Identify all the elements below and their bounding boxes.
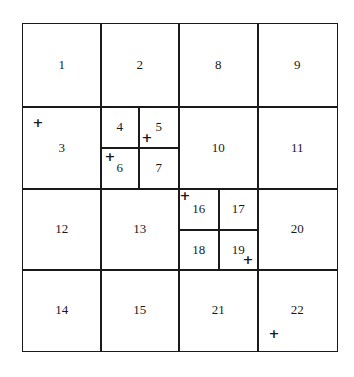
cell-label: 13 xyxy=(133,221,146,237)
cell-label: 2 xyxy=(137,57,144,73)
cell-label: 3 xyxy=(59,140,66,156)
cell-label: 8 xyxy=(215,57,222,73)
cell-11: 11 xyxy=(257,106,338,190)
cell-8: 8 xyxy=(178,23,259,108)
cell-17: 17 xyxy=(218,188,259,231)
cell-label: 11 xyxy=(291,140,304,156)
cell-label: 5 xyxy=(156,119,163,135)
cell-2: 2 xyxy=(100,23,180,108)
cell-label: 20 xyxy=(291,221,304,237)
cell-label: 15 xyxy=(133,302,146,318)
cell-1: 1 xyxy=(22,23,102,108)
point-marker-icon: + xyxy=(269,327,280,340)
cell-21: 21 xyxy=(178,269,259,352)
cell-label: 18 xyxy=(192,242,205,258)
cell-20: 20 xyxy=(257,188,338,271)
cell-label: 10 xyxy=(212,140,225,156)
cell-label: 14 xyxy=(55,302,68,318)
cell-label: 17 xyxy=(232,201,245,217)
cell-label: 6 xyxy=(117,160,124,176)
point-marker-icon: + xyxy=(142,131,153,144)
cell-12: 12 xyxy=(22,188,102,271)
point-marker-icon: + xyxy=(243,253,254,266)
point-marker-icon: + xyxy=(33,116,44,129)
cell-7: 7 xyxy=(138,147,180,190)
point-marker-icon: + xyxy=(105,150,116,163)
cell-label: 4 xyxy=(117,119,124,135)
cell-label: 21 xyxy=(212,302,225,318)
cell-label: 7 xyxy=(156,160,163,176)
cell-18: 18 xyxy=(178,229,220,271)
cell-label: 12 xyxy=(55,221,68,237)
cell-label: 1 xyxy=(59,57,66,73)
cell-label: 16 xyxy=(192,201,205,217)
cell-14: 14 xyxy=(22,269,102,352)
cell-9: 9 xyxy=(257,23,338,108)
cell-4: 4 xyxy=(100,106,140,149)
cell-label: 22 xyxy=(291,302,304,318)
cell-13: 13 xyxy=(100,188,180,271)
cell-10: 10 xyxy=(178,106,259,190)
point-marker-icon: + xyxy=(180,189,191,202)
cell-15: 15 xyxy=(100,269,180,352)
cell-label: 9 xyxy=(294,57,301,73)
